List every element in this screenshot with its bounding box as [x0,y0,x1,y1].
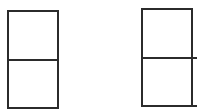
left-box-bottom-edge [7,107,59,109]
left-box-divider [7,59,59,61]
left-box-top-edge [7,10,59,12]
right-box-divider [141,57,197,59]
right-box-top-edge [141,8,193,10]
right-box-bottom-edge [141,105,197,107]
diagram-canvas [0,0,200,109]
